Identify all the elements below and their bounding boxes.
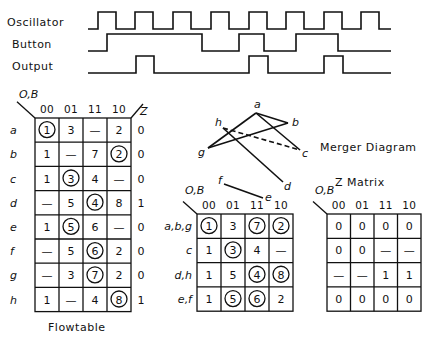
table-cell: —	[276, 244, 287, 257]
table-cell: 5	[68, 221, 75, 234]
output-value: 1	[138, 294, 145, 307]
table-cell: 1	[44, 148, 51, 161]
state-label: b	[10, 148, 17, 161]
table-cell: 0	[335, 220, 342, 233]
input-variables-label: O,B	[19, 88, 38, 101]
waveform	[88, 56, 391, 73]
merger-diagram-title: Merger Diagram	[320, 141, 417, 154]
table-cell: 3	[68, 269, 75, 282]
table-cell: —	[66, 294, 77, 307]
table-cell: 1	[44, 124, 51, 137]
table-cell: —	[357, 269, 368, 282]
output-value: 0	[138, 124, 145, 137]
corner-diagonal	[17, 102, 35, 118]
table-cell: 7	[254, 220, 261, 233]
output-value: 0	[138, 221, 145, 234]
table-cell: 1	[44, 294, 51, 307]
input-variables-label: O,B	[315, 184, 334, 197]
merger-edge-h-d	[223, 128, 283, 182]
table-cell: 1	[382, 269, 389, 282]
table-cell: —	[90, 124, 101, 137]
waveform	[88, 12, 391, 29]
signal-oscillator: Oscillator	[7, 12, 391, 29]
signal-label: Oscillator	[7, 16, 64, 29]
merged-state-label: c	[186, 244, 192, 257]
table-cell: 0	[359, 293, 366, 306]
table-cell: 3	[230, 244, 237, 257]
table-cell: 0	[406, 293, 413, 306]
output-label: Z	[139, 105, 148, 118]
table-cell: 0	[359, 220, 366, 233]
table-cell: 7	[92, 148, 99, 161]
table-cell: —	[404, 244, 415, 257]
table-cell: —	[66, 148, 77, 161]
signal-button: Button	[12, 34, 391, 51]
table-cell: 8	[116, 197, 123, 210]
table-cell: —	[42, 269, 53, 282]
merger-node-d: d	[284, 180, 292, 193]
merger-edge-f-e	[224, 184, 263, 198]
table-cell: 4	[92, 173, 99, 186]
output-value: 1	[138, 197, 145, 210]
column-header: 11	[88, 103, 102, 115]
merged-flowtable: O,B00011110a,b,g1372c134—d,h1548e,f1562	[164, 184, 293, 311]
output-value: 0	[138, 173, 145, 186]
table-cell: 4	[254, 269, 261, 282]
table-cell: 1	[44, 221, 51, 234]
table-cell: 8	[278, 269, 285, 282]
merger-node-h: h	[215, 116, 222, 129]
column-header: 01	[226, 199, 240, 211]
merger-node-c: c	[302, 147, 308, 160]
table-cell: 1	[206, 220, 213, 233]
table-cell: 1	[206, 269, 213, 282]
table-cell: 6	[92, 245, 99, 258]
table-cell: —	[114, 173, 125, 186]
table-cell: 6	[92, 221, 99, 234]
table-cell: 1	[206, 293, 213, 306]
table-cell: 1	[406, 269, 413, 282]
table-cell: —	[333, 269, 344, 282]
merger-node-g: g	[198, 146, 205, 159]
state-label: g	[10, 269, 17, 282]
state-label: e	[10, 221, 17, 234]
table-cell: 4	[92, 294, 99, 307]
column-header: 00	[332, 199, 346, 211]
merged-state-label: a,b,g	[164, 220, 192, 233]
table-cell: 3	[230, 220, 237, 233]
table-cell: 5	[230, 269, 237, 282]
output-value: 0	[138, 245, 145, 258]
merger-node-e: e	[265, 191, 272, 204]
state-label: c	[10, 173, 16, 186]
table-cell: 3	[68, 173, 75, 186]
merged-state-label: e,f	[178, 293, 194, 306]
flowtable-caption: Flowtable	[48, 321, 105, 334]
column-header: 11	[250, 199, 264, 211]
column-header: 10	[274, 199, 288, 211]
table-cell: 1	[206, 244, 213, 257]
signal-label: Output	[12, 60, 53, 73]
merger-node-f: f	[218, 174, 224, 187]
table-cell: 8	[116, 294, 123, 307]
flowtable: O,B00011110Za13—20b1—720c134—0d—5481e156…	[10, 88, 148, 334]
table-cell: 1	[44, 173, 51, 186]
table-cell: 0	[406, 220, 413, 233]
state-label: a	[10, 124, 17, 137]
table-cell: 5	[68, 197, 75, 210]
table-cell: 2	[116, 148, 123, 161]
table-cell: 2	[116, 269, 123, 282]
table-cell: 0	[382, 293, 389, 306]
state-label: f	[10, 245, 16, 258]
merger-node-a: a	[254, 98, 261, 111]
table-cell: 5	[68, 245, 75, 258]
state-label: d	[10, 197, 18, 210]
corner-diagonal	[183, 201, 197, 214]
signal-output: Output	[12, 56, 391, 73]
output-value: 0	[138, 148, 145, 161]
table-cell: 2	[278, 220, 285, 233]
table-cell: —	[114, 221, 125, 234]
table-cell: 0	[382, 220, 389, 233]
column-header: 10	[112, 103, 126, 115]
table-cell: 0	[335, 244, 342, 257]
output-value: 0	[138, 269, 145, 282]
signal-label: Button	[12, 38, 52, 51]
